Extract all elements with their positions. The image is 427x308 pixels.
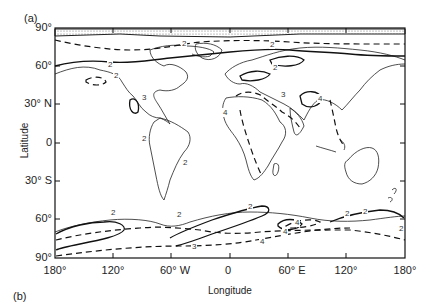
xtick-180w: 180° [30,264,80,276]
contour-label: 4 [294,218,300,227]
contour-label: 2 [107,60,113,69]
y-axis-title: Latitude [19,111,30,171]
contour-label: 2 [362,207,368,216]
contour-label: 2 [272,63,278,72]
dashed-contours [55,40,405,256]
ytick-60s: 60° [2,212,52,224]
xtick-60w: 60° W [150,264,200,276]
ytick-90n: 90° [2,21,52,33]
contour-label: 2 [247,202,253,211]
ytick-90s: 90° [2,251,52,263]
x-axis-title: Longitude [208,285,252,296]
contour-label: 4 [222,108,228,117]
ytick-30n: 30° N [2,97,52,109]
xtick-0: 0 [203,264,253,276]
contour-label: 2 [269,40,275,49]
xtick-60e: 60° E [267,264,317,276]
contour-label: 2 [344,209,350,218]
xtick-120e: 120° [321,264,371,276]
contour-label: 4 [317,94,323,103]
contour-label: 2 [176,210,182,219]
contour-label: 2 [113,71,119,80]
contour-label: 3 [280,90,286,99]
contour-label: 2 [398,224,404,233]
contour-label: 2 [110,208,116,217]
xtick-120w: 120° [88,264,138,276]
coastlines [55,43,405,232]
contour-label: 4 [282,227,288,236]
contour-label: 4 [259,237,265,246]
contour-label: 3 [191,242,197,251]
xtick-180e: 180° [380,264,427,276]
contour-label: 2 [182,158,188,167]
ytick-30s: 30° S [2,174,52,186]
ytick-60n: 60° [2,59,52,71]
contour-label: 2 [141,134,147,143]
map-plot [0,0,427,308]
contour-label: 3 [141,93,147,102]
contour-label: 2 [181,39,187,48]
